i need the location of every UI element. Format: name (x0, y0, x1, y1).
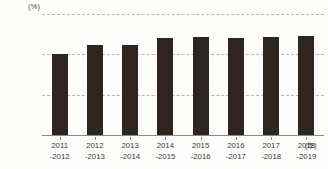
x-label-line-2: -2017 (216, 152, 256, 163)
bar (157, 38, 173, 135)
bar (122, 45, 138, 135)
x-axis-tick (130, 137, 131, 140)
bar (193, 37, 209, 135)
x-label-line-1: 2017 (262, 141, 279, 150)
x-label-line-1: 2013 (121, 141, 138, 150)
x-label-line-2: -2015 (145, 152, 185, 163)
x-axis-tick-labels: 2011-20122012-20132013-20142014-20152015… (42, 137, 324, 167)
x-label-line-1: 2011 (51, 141, 68, 150)
y-axis-unit-label: (%) (28, 2, 40, 11)
bar (263, 37, 279, 135)
bar (87, 45, 103, 135)
x-axis-tick-label: 2014-2015 (145, 141, 185, 162)
x-label-line-2: -2018 (251, 152, 291, 163)
x-label-line-1: 2015 (192, 141, 209, 150)
bar-chart: (%) 150100500 2011-20122012-20132013-201… (0, 0, 328, 169)
x-label-line-1: 2014 (157, 141, 174, 150)
x-axis-tick-label: 2011-2012 (40, 141, 80, 162)
x-axis-tick (236, 137, 237, 140)
x-axis-tick (271, 137, 272, 140)
x-axis-tick-label: 2015-2016 (181, 141, 221, 162)
x-label-line-2: -2019 (286, 152, 326, 163)
x-axis-tick-label: 2013-2014 (110, 141, 150, 162)
bar (52, 54, 68, 135)
x-axis-tick (165, 137, 166, 140)
x-axis-tick (60, 137, 61, 140)
plot-area: 150100500 (42, 14, 324, 135)
x-axis-tick-label: 2017-2018 (251, 141, 291, 162)
x-axis-unit-label: (年) (305, 142, 317, 150)
x-label-line-2: -2014 (110, 152, 150, 163)
x-axis-tick (201, 137, 202, 140)
x-label-line-2: -2013 (75, 152, 115, 163)
x-label-line-1: 2016 (227, 141, 244, 150)
x-axis-tick-label: 2012-2013 (75, 141, 115, 162)
bar (298, 36, 314, 135)
x-axis-tick (95, 137, 96, 140)
x-axis-tick-label: 2016-2017 (216, 141, 256, 162)
bar-series (42, 14, 324, 135)
bar (228, 38, 244, 135)
x-label-line-1: 2012 (86, 141, 103, 150)
x-label-line-2: -2012 (40, 152, 80, 163)
gridline (42, 135, 324, 136)
x-label-line-2: -2016 (181, 152, 221, 163)
x-axis-tick (306, 137, 307, 140)
